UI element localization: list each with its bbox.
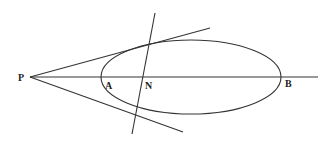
upper-tangent-line [30,28,210,77]
ellipse-tangent-diagram: P A N B [0,0,335,144]
label-p: P [18,72,24,83]
label-a: A [105,80,113,91]
label-b: B [285,78,292,89]
label-n: N [145,80,153,91]
chord-of-contact-line [132,13,155,134]
